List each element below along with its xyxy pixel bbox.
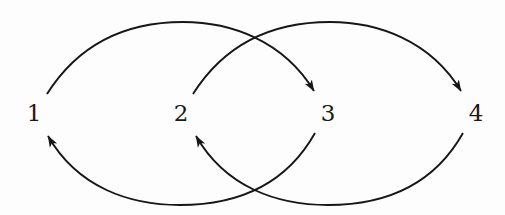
node-4-label: 4 xyxy=(469,102,484,125)
edge-3-to-1 xyxy=(48,133,315,205)
arc-1-to-3 xyxy=(47,22,314,94)
arc-4-to-2 xyxy=(196,133,463,205)
node-1-label: 1 xyxy=(27,102,42,125)
edge-2-to-4 xyxy=(193,22,461,94)
arc-3-to-1 xyxy=(48,133,315,205)
edges-layer xyxy=(0,0,505,215)
directed-graph-diagram: 1 2 3 4 xyxy=(0,0,505,215)
edge-4-to-2 xyxy=(196,133,463,205)
arc-2-to-4 xyxy=(193,22,461,94)
node-2-label: 2 xyxy=(174,102,189,125)
edge-1-to-3 xyxy=(47,22,314,94)
node-3-label: 3 xyxy=(321,102,336,125)
